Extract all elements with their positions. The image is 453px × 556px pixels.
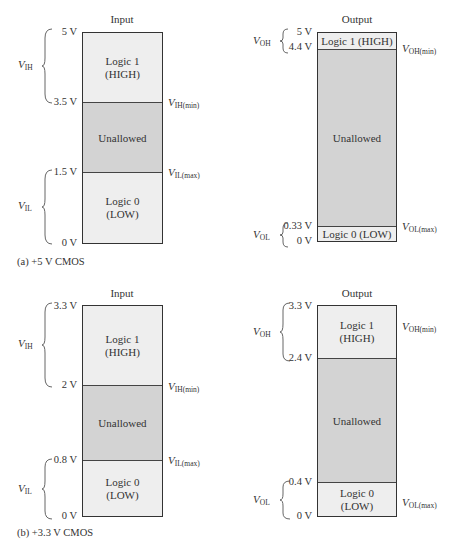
caption-b: (b) +3.3 V CMOS <box>17 527 93 538</box>
region-label: Logic 1 (HIGH) <box>321 35 392 48</box>
panel-b-input-logic0: Logic 0(LOW) <box>83 460 162 516</box>
threshold-label-vih-min: VIH(min) <box>168 96 199 110</box>
region-label: Logic 0 <box>340 487 374 500</box>
tick-label: 0.33 V <box>272 220 312 231</box>
region-label: Logic 0 <box>106 195 140 208</box>
threshold-label-vol-max: VOL(max) <box>402 220 437 234</box>
brace-icon <box>280 302 292 362</box>
region-label: (HIGH) <box>105 346 140 359</box>
threshold-label-voh-min: VOH(min) <box>402 42 436 56</box>
range-label-vih: VIH <box>18 58 33 72</box>
range-label-vih: VIH <box>18 337 33 351</box>
region-label: (LOW) <box>340 500 374 513</box>
tick-label: 0 V <box>272 510 312 521</box>
threshold-label-vil-max: VIL(max) <box>168 454 200 468</box>
region-label: Unallowed <box>333 415 381 428</box>
brace-icon <box>280 28 290 54</box>
region-label: Unallowed <box>333 132 381 145</box>
brace-icon <box>42 458 54 520</box>
region-label: Unallowed <box>98 417 146 430</box>
range-label-vol: VOL <box>253 493 270 507</box>
panel-a-input-title: Input <box>82 13 162 25</box>
region-label: (HIGH) <box>340 332 375 345</box>
brace-icon <box>42 28 54 104</box>
panel-a-output-logic1: Logic 1 (HIGH) <box>318 33 396 49</box>
panel-b-input-title: Input <box>82 287 162 299</box>
panel-a-output-unallowed: Unallowed <box>318 49 396 227</box>
range-label-voh: VOH <box>253 325 271 339</box>
panel-a-output-box: Logic 1 (HIGH) Unallowed Logic 0 (LOW) <box>317 32 397 242</box>
threshold-label-vih-min: VIH(min) <box>168 380 199 394</box>
tick-label: 4.4 V <box>272 41 312 52</box>
tick-label: 2.4 V <box>272 352 312 363</box>
tick-label: 5 V <box>272 26 312 37</box>
panel-a-input-box: Logic 1(HIGH) Unallowed Logic 0(LOW) <box>82 32 163 244</box>
range-label-vil: VIL <box>18 482 32 496</box>
brace-icon <box>280 480 292 520</box>
panel-a-input-logic0: Logic 0(LOW) <box>83 172 162 243</box>
region-label: (HIGH) <box>105 68 140 81</box>
panel-a-input-unallowed: Unallowed <box>83 102 162 173</box>
tick-label: 0 V <box>272 235 312 246</box>
panel-a-output-logic0: Logic 0 (LOW) <box>318 226 396 241</box>
region-label: (LOW) <box>106 208 140 221</box>
range-label-voh: VOH <box>253 34 271 48</box>
region-label: Logic 0 (LOW) <box>322 228 391 241</box>
threshold-label-voh-min: VOH(min) <box>402 320 436 334</box>
region-label: (LOW) <box>106 489 140 502</box>
threshold-label-vol-max: VOL(max) <box>402 496 437 510</box>
panel-b-output-title: Output <box>317 287 397 299</box>
caption-a: (a) +5 V CMOS <box>17 256 85 267</box>
range-label-vol: VOL <box>253 228 270 242</box>
tick-label: 0.4 V <box>272 476 312 487</box>
region-label: Unallowed <box>98 132 146 145</box>
region-label: Logic 1 <box>105 55 140 68</box>
region-label: Logic 0 <box>106 476 140 489</box>
threshold-label-vil-max: VIL(max) <box>168 166 200 180</box>
panel-b-input-unallowed: Unallowed <box>83 385 162 461</box>
tick-label: 3.3 V <box>272 300 312 311</box>
region-label: Logic 1 <box>340 319 375 332</box>
panel-b-output-box: Logic 1(HIGH) Unallowed Logic 0(LOW) <box>317 305 397 517</box>
panel-b-input-box: Logic 1(HIGH) Unallowed Logic 0(LOW) <box>82 305 163 517</box>
panel-b-output-logic0: Logic 0(LOW) <box>318 482 396 516</box>
brace-icon <box>42 302 54 388</box>
panel-b-input-logic1: Logic 1(HIGH) <box>83 306 162 385</box>
brace-icon <box>42 169 54 245</box>
region-label: Logic 1 <box>105 333 140 346</box>
brace-icon <box>280 222 290 248</box>
range-label-vil: VIL <box>18 199 32 213</box>
panel-a-input-logic1: Logic 1(HIGH) <box>83 33 162 102</box>
panel-b-output-unallowed: Unallowed <box>318 358 396 483</box>
panel-a-output-title: Output <box>317 13 397 25</box>
panel-b-output-logic1: Logic 1(HIGH) <box>318 306 396 358</box>
